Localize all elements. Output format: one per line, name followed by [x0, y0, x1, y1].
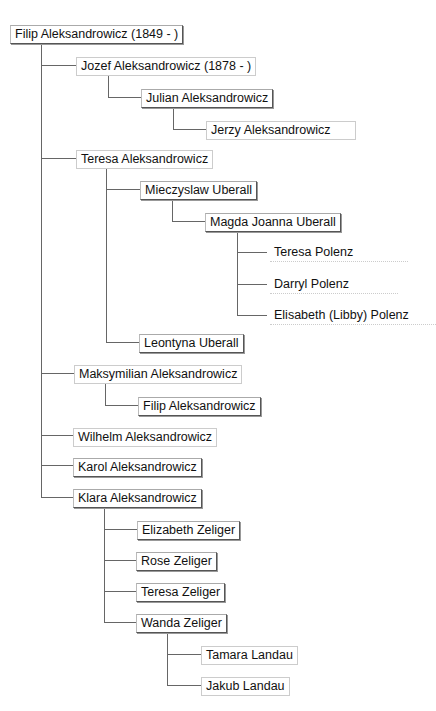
connector: [106, 342, 139, 343]
connector: [172, 199, 173, 221]
connector: [41, 435, 73, 436]
connector: [173, 107, 174, 129]
person-node: Wanda Zeliger: [136, 614, 227, 633]
connector: [237, 284, 267, 285]
connector: [41, 373, 74, 374]
connector: [173, 129, 206, 130]
person-node: Tamara Landau: [201, 646, 298, 665]
connector: [41, 497, 73, 498]
person-node: Darryl Polenz: [270, 276, 398, 294]
connector: [105, 383, 106, 405]
connector: [237, 231, 238, 315]
connector: [105, 405, 138, 406]
connector: [106, 168, 107, 342]
connector: [104, 507, 105, 622]
person-node: Leontyna Uberall: [139, 334, 244, 353]
person-node: Jerzy Aleksandrowicz: [206, 121, 356, 140]
person-node: Filip Aleksandrowicz (1849 - ): [10, 25, 183, 44]
connector: [106, 189, 140, 190]
person-node: Mieczyslaw Uberall: [140, 181, 257, 200]
connector: [167, 685, 201, 686]
connector: [104, 591, 136, 592]
person-node: Karol Aleksandrowicz: [73, 458, 202, 477]
person-node: Teresa Aleksandrowicz: [76, 150, 213, 169]
connector: [167, 654, 201, 655]
connector: [41, 43, 42, 498]
person-node: Rose Zeliger: [136, 552, 217, 571]
person-node: Teresa Zeliger: [136, 583, 225, 602]
person-node: Klara Aleksandrowicz: [73, 489, 202, 508]
connector: [172, 221, 205, 222]
person-node: Julian Aleksandrowicz: [141, 89, 273, 108]
connector: [104, 622, 136, 623]
person-node: Wilhelm Aleksandrowicz: [73, 428, 217, 447]
person-node: Teresa Polenz: [270, 244, 408, 262]
person-node: Jakub Landau: [201, 677, 290, 696]
connector: [41, 65, 76, 66]
connector: [237, 315, 267, 316]
connector: [108, 75, 109, 97]
person-node: Magda Joanna Uberall: [205, 213, 341, 232]
person-node: Jozef Aleksandrowicz (1878 - ): [76, 57, 256, 76]
person-node: Maksymilian Aleksandrowicz: [74, 365, 242, 384]
connector: [104, 529, 137, 530]
connector: [41, 465, 73, 466]
connector: [237, 252, 267, 253]
connector: [108, 97, 141, 98]
connector: [167, 632, 168, 685]
person-node: Elizabeth Zeliger: [137, 521, 240, 540]
person-node: Elisabeth (Libby) Polenz: [270, 307, 436, 325]
connector: [41, 158, 76, 159]
connector: [104, 560, 136, 561]
person-node: Filip Aleksandrowicz: [138, 397, 261, 416]
